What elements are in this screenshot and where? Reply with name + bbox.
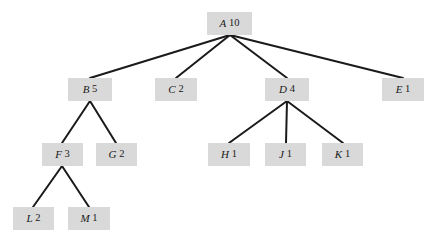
- tree-node-d[interactable]: D4: [265, 78, 309, 101]
- node-value: 3: [65, 149, 70, 160]
- node-label: H: [221, 149, 229, 160]
- tree-node-a[interactable]: A10: [207, 12, 252, 35]
- node-label: D: [279, 84, 287, 95]
- node-label: J: [279, 149, 284, 160]
- node-label: M: [80, 213, 89, 224]
- node-value: 4: [290, 84, 295, 95]
- tree-edge-b-g: [90, 101, 116, 143]
- tree-node-e[interactable]: E1: [382, 78, 424, 101]
- tree-edge-a-c: [176, 35, 230, 78]
- tree-node-j[interactable]: J1: [265, 143, 306, 166]
- node-value: 10: [229, 18, 240, 29]
- tree-edge-a-b: [90, 35, 230, 78]
- node-label: E: [396, 84, 403, 95]
- tree-edge-d-j: [286, 101, 287, 143]
- tree-edge-f-l: [33, 166, 62, 207]
- tree-node-f[interactable]: F3: [42, 143, 83, 166]
- tree-node-b[interactable]: B5: [68, 78, 112, 101]
- tree-edge-b-f: [62, 101, 90, 143]
- tree-node-g[interactable]: G2: [96, 143, 137, 166]
- edge-layer: [0, 0, 430, 244]
- tree-edge-f-m: [62, 166, 89, 207]
- node-value: 1: [92, 213, 97, 224]
- node-value: 2: [178, 84, 183, 95]
- tree-node-h[interactable]: H1: [208, 143, 250, 166]
- node-label: B: [83, 84, 90, 95]
- tree-edge-d-k: [287, 101, 343, 143]
- node-label: K: [335, 149, 343, 160]
- node-value: 1: [345, 149, 350, 160]
- node-label: F: [55, 149, 62, 160]
- node-label: L: [26, 213, 32, 224]
- tree-diagram: A10B5C2D4E1F3G2H1J1K1L2M1: [0, 0, 430, 244]
- node-label: A: [220, 18, 227, 29]
- node-value: 1: [405, 84, 410, 95]
- tree-edge-d-h: [229, 101, 287, 143]
- node-value: 2: [119, 149, 124, 160]
- tree-edge-a-e: [230, 35, 403, 78]
- node-value: 5: [92, 84, 97, 95]
- node-value: 1: [287, 149, 292, 160]
- node-label: C: [168, 84, 176, 95]
- tree-node-c[interactable]: C2: [155, 78, 197, 101]
- node-value: 2: [35, 213, 40, 224]
- tree-node-m[interactable]: M1: [68, 207, 110, 230]
- node-label: G: [109, 149, 117, 160]
- tree-node-k[interactable]: K1: [322, 143, 363, 166]
- tree-node-l[interactable]: L2: [13, 207, 54, 230]
- node-value: 1: [232, 149, 237, 160]
